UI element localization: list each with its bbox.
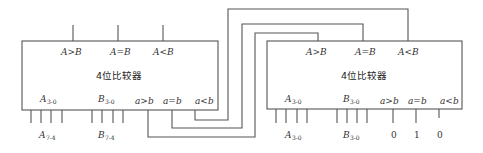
right-a-label: A xyxy=(284,94,292,104)
right-a-sub: 3-0 xyxy=(292,98,302,105)
right-out-label-lt: A<B xyxy=(397,47,419,57)
left-a-label: A xyxy=(39,94,47,104)
right-chip-title: 4位比较器 xyxy=(341,70,387,81)
left-out-label-eq: A=B xyxy=(109,47,131,57)
right-cascade-eq: a=b xyxy=(408,96,427,106)
left-b-ext-sub: 7-4 xyxy=(105,134,115,141)
right-cascade-lt-value: 0 xyxy=(437,130,443,140)
right-b-ext-sub: 3-0 xyxy=(350,134,360,141)
left-a-sub: 3-0 xyxy=(47,98,57,105)
right-cascade-eq-value: 1 xyxy=(414,130,420,140)
left-chip-title: 4位比较器 xyxy=(96,70,142,81)
right-cascade-gt: a>b xyxy=(380,96,399,106)
left-out-label-gt: A>B xyxy=(60,47,82,57)
left-a-ext-sub: 7-4 xyxy=(46,134,56,141)
right-cascade-lt: a<b xyxy=(440,96,459,106)
right-cascade-gt-value: 0 xyxy=(391,130,397,140)
right-a-ext-label: A xyxy=(284,130,292,140)
comparator-diagram: A>B A=B A<B 4位比较器 A 3-0 B 3-0 a>b a=b a<… xyxy=(0,0,483,153)
right-b-label: B xyxy=(342,94,350,104)
right-out-label-gt: A>B xyxy=(305,47,327,57)
left-b-label: B xyxy=(97,94,105,104)
left-cascade-eq: a=b xyxy=(163,96,182,106)
left-b-sub: 3-0 xyxy=(105,98,115,105)
left-cascade-lt: a<b xyxy=(195,96,214,106)
left-comparator: A>B A=B A<B 4位比较器 A 3-0 B 3-0 a>b a=b a<… xyxy=(22,25,218,141)
right-a-ext-sub: 3-0 xyxy=(292,134,302,141)
right-out-label-eq: A=B xyxy=(354,47,376,57)
right-b-sub: 3-0 xyxy=(350,98,360,105)
right-comparator: A>B A=B A<B 4位比较器 A 3-0 B 3-0 a>b a=b a<… xyxy=(267,41,462,141)
left-b-ext-label: B xyxy=(97,130,105,140)
left-cascade-gt: a>b xyxy=(135,96,154,106)
right-b-ext-label: B xyxy=(342,130,350,140)
left-out-label-lt: A<B xyxy=(152,47,174,57)
left-a-ext-label: A xyxy=(38,130,46,140)
